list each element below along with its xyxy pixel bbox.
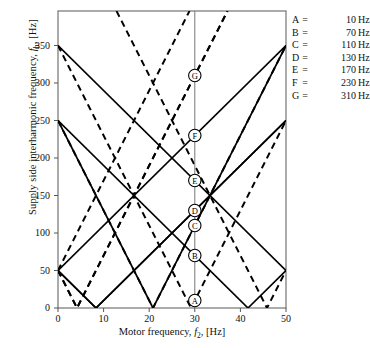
legend-unit-D: Hz bbox=[358, 52, 370, 65]
legend-row-F: F=230Hz bbox=[292, 77, 370, 90]
legend-unit-G: Hz bbox=[358, 90, 370, 103]
legend-equals: = bbox=[300, 27, 310, 40]
legend-unit-A: Hz bbox=[358, 14, 370, 27]
legend-value-B: 70 bbox=[310, 27, 358, 40]
y-tick-label-50: 50 bbox=[24, 266, 50, 276]
legend-unit-F: Hz bbox=[358, 77, 370, 90]
legend-value-C: 110 bbox=[310, 39, 358, 52]
legend-row-E: E=170Hz bbox=[292, 64, 370, 77]
legend: A=10HzB=70HzC=110HzD=130HzE=170HzF=230Hz… bbox=[292, 14, 370, 102]
legend-value-A: 10 bbox=[310, 14, 358, 27]
legend-key-B: B bbox=[292, 27, 300, 40]
legend-key-D: D bbox=[292, 52, 300, 65]
x-tick-label-20: 20 bbox=[134, 314, 164, 324]
marker-label-E: E bbox=[192, 176, 197, 186]
legend-key-C: C bbox=[292, 39, 300, 52]
marker-label-F: F bbox=[192, 131, 197, 141]
legend-value-G: 310 bbox=[310, 90, 358, 103]
y-tick-label-150: 150 bbox=[24, 191, 50, 201]
x-tick-label-50: 50 bbox=[271, 314, 301, 324]
legend-unit-E: Hz bbox=[358, 64, 370, 77]
legend-key-E: E bbox=[292, 64, 300, 77]
y-tick-label-300: 300 bbox=[24, 78, 50, 88]
plot-frame bbox=[58, 11, 286, 308]
legend-value-F: 230 bbox=[310, 77, 358, 90]
marker-label-C: C bbox=[192, 221, 198, 231]
legend-row-A: A=10Hz bbox=[292, 14, 370, 27]
y-tick-label-200: 200 bbox=[24, 153, 50, 163]
legend-row-C: C=110Hz bbox=[292, 39, 370, 52]
x-tick-label-0: 0 bbox=[43, 314, 73, 324]
marker-label-D: D bbox=[192, 206, 198, 216]
legend-unit-C: Hz bbox=[358, 39, 370, 52]
x-axis-label: Motor frequency, f2, [Hz] bbox=[58, 326, 286, 340]
legend-key-G: G bbox=[292, 90, 300, 103]
marker-label-B: B bbox=[192, 251, 198, 261]
y-tick-label-250: 250 bbox=[24, 116, 50, 126]
x-tick-label-30: 30 bbox=[180, 314, 210, 324]
legend-row-B: B=70Hz bbox=[292, 27, 370, 40]
legend-equals: = bbox=[300, 52, 310, 65]
legend-row-G: G=310Hz bbox=[292, 90, 370, 103]
legend-key-A: A bbox=[292, 14, 300, 27]
legend-unit-B: Hz bbox=[358, 27, 370, 40]
y-tick-label-100: 100 bbox=[24, 228, 50, 238]
legend-equals: = bbox=[300, 90, 310, 103]
legend-equals: = bbox=[300, 39, 310, 52]
legend-equals: = bbox=[300, 64, 310, 77]
legend-row-D: D=130Hz bbox=[292, 52, 370, 65]
legend-key-F: F bbox=[292, 77, 300, 90]
marker-label-G: G bbox=[192, 71, 198, 81]
x-tick-label-40: 40 bbox=[225, 314, 255, 324]
legend-value-D: 130 bbox=[310, 52, 358, 65]
legend-value-E: 170 bbox=[310, 64, 358, 77]
marker-label-A: A bbox=[192, 296, 199, 306]
legend-equals: = bbox=[300, 77, 310, 90]
legend-equals: = bbox=[300, 14, 310, 27]
y-tick-label-350: 350 bbox=[24, 41, 50, 51]
y-tick-label-0: 0 bbox=[24, 303, 50, 313]
x-tick-label-10: 10 bbox=[89, 314, 119, 324]
